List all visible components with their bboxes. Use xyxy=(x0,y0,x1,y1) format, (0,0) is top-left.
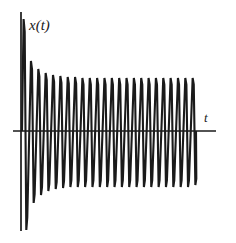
x-axis-label: t xyxy=(204,111,208,124)
plot-canvas xyxy=(0,0,236,243)
oscillation-figure: x(t) t xyxy=(0,0,236,243)
damped-oscillation-waveform xyxy=(22,19,196,230)
y-axis-label: x(t) xyxy=(29,18,50,33)
